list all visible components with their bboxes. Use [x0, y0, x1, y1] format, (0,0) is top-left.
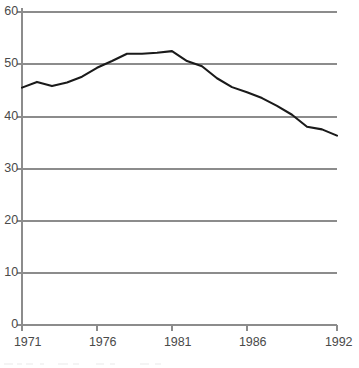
x-tick-label-1986: 1986	[239, 336, 266, 349]
line-chart: 60 50 40 30 20 10 0 1971 1976 1981 1986 …	[0, 0, 359, 368]
y-tick-label-20: 20	[0, 214, 18, 227]
x-tick-label-1992: 1992	[325, 336, 352, 349]
x-tick-label-1971: 1971	[14, 336, 41, 349]
y-tick-label-10: 10	[0, 266, 18, 279]
gridlines	[22, 12, 337, 273]
x-tick-marks	[22, 325, 337, 331]
y-tick-label-30: 30	[0, 162, 18, 175]
x-tick-label-1981: 1981	[164, 336, 191, 349]
y-tick-label-50: 50	[0, 57, 18, 70]
x-tick-label-1976: 1976	[89, 336, 116, 349]
y-tick-label-0: 0	[0, 318, 18, 331]
y-tick-label-40: 40	[0, 110, 18, 123]
y-tick-label-60: 60	[0, 5, 18, 18]
chart-plot-area	[0, 0, 359, 368]
